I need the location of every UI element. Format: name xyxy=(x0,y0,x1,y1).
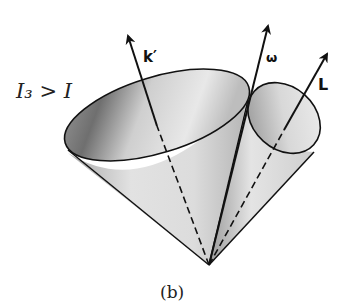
figure-caption: (b) xyxy=(160,282,184,302)
L-label: L xyxy=(318,75,328,94)
k-prime-label: k′ xyxy=(143,48,157,66)
omega-label: ω xyxy=(266,50,277,65)
cone-diagram: k′ ω L I₃ > I (b) xyxy=(0,0,360,305)
condition-label: I₃ > I xyxy=(15,79,73,103)
